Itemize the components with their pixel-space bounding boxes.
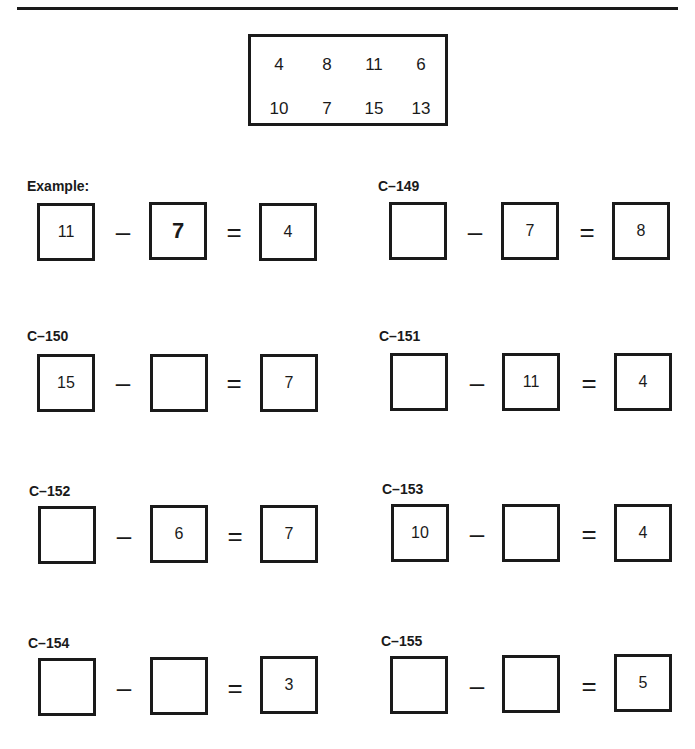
problem-label: C–149 [378, 178, 419, 194]
minuend-box: 11 [37, 203, 95, 261]
problem-label: C–155 [381, 633, 422, 649]
problem-label: Example: [27, 178, 89, 194]
top-rule [17, 7, 678, 10]
bank-number: 4 [259, 55, 299, 75]
subtrahend-box: 11 [502, 353, 560, 411]
minus-sign: – [108, 368, 138, 398]
subtrahend-box: 7 [501, 202, 559, 260]
equals-sign: = [220, 673, 250, 703]
subtrahend-box: 7 [149, 202, 207, 260]
subtrahend-box[interactable] [150, 354, 208, 412]
equals-sign: = [219, 368, 249, 398]
bank-number: 7 [307, 99, 347, 119]
bank-number: 15 [354, 99, 394, 119]
equals-sign: = [219, 217, 249, 247]
problem-label: C–150 [27, 328, 68, 344]
minuend-box[interactable] [38, 506, 96, 564]
difference-box: 4 [259, 203, 317, 261]
minus-sign: – [460, 217, 490, 247]
difference-box: 8 [612, 202, 670, 260]
minus-sign: – [462, 519, 492, 549]
difference-box: 7 [260, 505, 318, 563]
subtrahend-box: 6 [150, 505, 208, 563]
minuend-box: 15 [37, 354, 95, 412]
minus-sign: – [109, 673, 139, 703]
minus-sign: – [462, 671, 492, 701]
bank-number: 13 [401, 99, 441, 119]
minuend-box[interactable] [38, 658, 96, 716]
subtrahend-box[interactable] [150, 657, 208, 715]
difference-box: 4 [614, 353, 672, 411]
minuend-box[interactable] [390, 656, 448, 714]
bank-number: 11 [354, 55, 394, 75]
minus-sign: – [462, 368, 492, 398]
minus-sign: – [109, 521, 139, 551]
number-bank: 4 8 11 6 10 7 15 13 [248, 34, 448, 126]
problem-label: C–154 [28, 635, 69, 651]
subtrahend-box[interactable] [502, 655, 560, 713]
minuend-box: 10 [391, 504, 449, 562]
equals-sign: = [574, 368, 604, 398]
equals-sign: = [574, 671, 604, 701]
problem-label: C–153 [382, 481, 423, 497]
minuend-box[interactable] [390, 353, 448, 411]
difference-box: 3 [260, 656, 318, 714]
equals-sign: = [574, 519, 604, 549]
bank-number: 8 [307, 55, 347, 75]
problem-label: C–151 [379, 328, 420, 344]
problem-label: C–152 [29, 483, 70, 499]
equals-sign: = [572, 217, 602, 247]
subtrahend-box[interactable] [502, 504, 560, 562]
minuend-box[interactable] [389, 202, 447, 260]
minus-sign: – [108, 217, 138, 247]
difference-box: 7 [260, 354, 318, 412]
bank-number: 6 [401, 55, 441, 75]
bank-number: 10 [259, 99, 299, 119]
difference-box: 5 [614, 654, 672, 712]
equals-sign: = [220, 521, 250, 551]
difference-box: 4 [614, 504, 672, 562]
